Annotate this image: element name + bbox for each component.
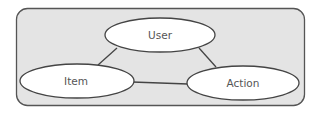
diagram-canvas: User Item Action — [0, 0, 318, 113]
node-action-label: Action — [227, 77, 260, 89]
node-item: Item — [20, 64, 134, 98]
node-action: Action — [187, 66, 299, 100]
node-user: User — [105, 18, 215, 52]
node-item-label: Item — [64, 75, 88, 87]
node-user-label: User — [148, 29, 173, 41]
